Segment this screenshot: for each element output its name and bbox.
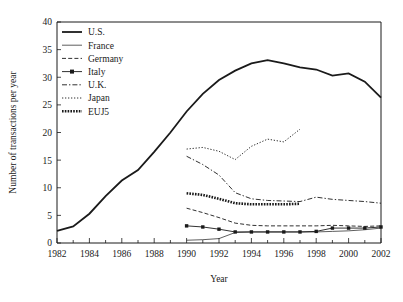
legend-label-uk: U.K. (88, 80, 106, 90)
x-tick-label: 1982 (48, 249, 67, 259)
data-point-marker (266, 230, 269, 233)
y-tick-label: 35 (43, 45, 53, 55)
legend-label-germany: Germany (88, 54, 124, 64)
x-tick-label: 1998 (307, 249, 326, 259)
x-tick-label: 1988 (145, 249, 164, 259)
data-point-marker (315, 230, 318, 233)
x-tick-label: 1986 (112, 249, 131, 259)
data-point-marker (201, 225, 204, 228)
data-point-marker (250, 230, 253, 233)
data-point-marker (331, 226, 334, 229)
y-tick-label: 0 (47, 238, 52, 248)
data-point-marker (379, 225, 382, 228)
x-tick-label: 2002 (372, 249, 391, 259)
y-tick-label: 5 (47, 211, 52, 221)
x-axis-title: Year (210, 274, 228, 284)
data-point-marker (234, 230, 237, 233)
data-point-marker (282, 230, 285, 233)
y-axis-title: Number of transactions per year (8, 70, 18, 193)
data-point-marker (363, 226, 366, 229)
data-point-marker (298, 230, 301, 233)
legend-label-france: France (88, 41, 114, 51)
series-line-germany (187, 208, 381, 226)
y-tick-label: 25 (43, 100, 53, 110)
y-tick-label: 15 (43, 156, 53, 166)
y-tick-label: 10 (43, 183, 53, 193)
series-line-euj5 (187, 193, 300, 204)
legend-marker-italy (70, 70, 74, 74)
x-tick-label: 1994 (242, 249, 261, 259)
legend-label-us: U.S. (88, 27, 105, 37)
line-chart: 0510152025303540198219841986198819901992… (0, 0, 403, 302)
y-tick-label: 20 (43, 128, 53, 138)
x-tick-label: 1992 (210, 249, 229, 259)
series-line-japan (187, 129, 300, 159)
data-point-marker (217, 227, 220, 230)
legend-label-italy: Italy (88, 67, 106, 77)
x-tick-label: 1996 (274, 249, 293, 259)
data-point-marker (347, 226, 350, 229)
chart-figure: 0510152025303540198219841986198819901992… (0, 0, 403, 302)
x-tick-label: 1984 (80, 249, 99, 259)
legend-label-japan: Japan (88, 93, 110, 103)
series-line-uk (187, 156, 381, 203)
x-tick-label: 1990 (177, 249, 196, 259)
y-tick-label: 30 (43, 73, 53, 83)
chart-legend: U.S.FranceGermanyItalyU.K.JapanEUJ5 (62, 27, 124, 116)
x-tick-label: 2000 (339, 249, 358, 259)
legend-label-euj5: EUJ5 (88, 107, 109, 117)
y-tick-label: 40 (43, 17, 53, 27)
data-point-marker (185, 224, 188, 227)
